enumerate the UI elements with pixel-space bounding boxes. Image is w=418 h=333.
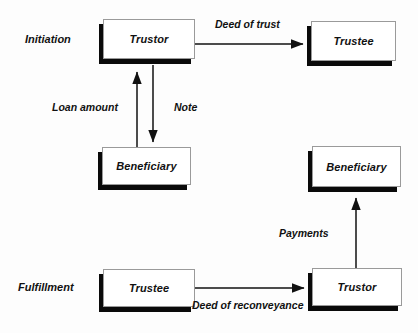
edge-label-deed-of-reconveyance: Deed of reconveyance — [192, 299, 303, 311]
node-trustee-top[interactable]: Trustee — [311, 21, 396, 61]
node-beneficiary-right[interactable]: Beneficiary — [312, 146, 401, 187]
node-label-trustor-bottom: Trustor — [337, 281, 376, 293]
node-trustee-bottom[interactable]: Trustee — [103, 269, 195, 307]
node-label-beneficiary-mid: Beneficiary — [116, 160, 176, 172]
phase-label-initiation: Initiation — [25, 33, 71, 45]
edge-label-payments: Payments — [279, 227, 329, 239]
phase-label-fulfillment: Fulfillment — [18, 281, 74, 293]
node-label-trustee-bottom: Trustee — [129, 282, 169, 294]
node-label-trustee-top: Trustee — [333, 35, 373, 47]
node-beneficiary-mid[interactable]: Beneficiary — [102, 147, 191, 185]
node-trustor-top[interactable]: Trustor — [103, 19, 195, 59]
edge-label-deed-of-trust: Deed of trust — [215, 18, 280, 30]
node-label-trustor-top: Trustor — [129, 33, 168, 45]
edge-label-loan-amount: Loan amount — [52, 101, 118, 113]
node-trustor-bottom[interactable]: Trustor — [312, 268, 402, 306]
node-label-beneficiary-right: Beneficiary — [326, 161, 386, 173]
diagram-canvas: Initiation Fulfillment Trustor Trustee B… — [0, 0, 418, 333]
edge-label-note: Note — [174, 101, 197, 113]
